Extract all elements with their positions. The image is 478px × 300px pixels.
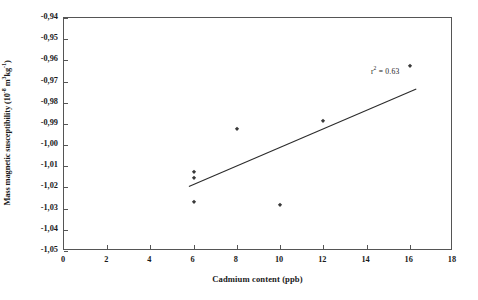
x-axis-tick-mark <box>367 245 368 249</box>
y-axis-tick-label: -1,00 <box>24 140 58 148</box>
plot-area: r2 = 0.63 <box>63 17 452 250</box>
y-axis-tick-mark <box>64 60 68 61</box>
y-axis-tick-mark <box>64 209 68 210</box>
y-axis-tick-label: -1,04 <box>24 225 58 233</box>
y-axis-tick-mark <box>64 124 68 125</box>
x-axis-title: Cadmium content (ppb) <box>63 274 452 284</box>
y-axis-tick-mark <box>64 166 68 167</box>
y-axis-tick-label: -0,97 <box>24 77 58 85</box>
y-axis-tick-label: -1,03 <box>24 204 58 212</box>
y-axis-tick-label: -1,01 <box>24 161 58 169</box>
y-axis-tick-mark <box>64 251 68 252</box>
y-axis-title-exp2: 3 <box>1 77 7 80</box>
y-axis-title-text: Mass magnetic susceptibility (10-8 m3kg-… <box>3 60 12 205</box>
y-axis-title-close: ) <box>3 60 12 63</box>
r2-value: = 0.63 <box>377 67 400 76</box>
y-axis-tick-label: -0,94 <box>24 13 58 21</box>
x-axis-tick-label: 12 <box>310 255 334 265</box>
x-axis-tick-label: 10 <box>267 255 291 265</box>
y-axis-tick-mark <box>64 39 68 40</box>
x-axis-tick-label: 8 <box>224 255 248 265</box>
y-axis-tick-label: -0,95 <box>24 34 58 42</box>
x-axis-tick-mark <box>107 245 108 249</box>
y-axis-title-mid: m <box>3 79 12 88</box>
y-axis-tick-mark <box>64 103 68 104</box>
y-axis-title-exp1: -8 <box>1 88 7 93</box>
y-axis-title-unit: kg <box>3 68 12 77</box>
x-axis-tick-label: 14 <box>354 255 378 265</box>
trendline <box>189 89 416 186</box>
y-axis-tick-label: -0,98 <box>24 98 58 106</box>
x-axis-tick-mark <box>410 245 411 249</box>
chart-figure: Mass magnetic susceptibility (10-8 m3kg-… <box>0 0 478 300</box>
trendline-layer <box>64 18 453 251</box>
x-axis-tick-label: 0 <box>51 255 75 265</box>
x-axis-tick-mark <box>280 245 281 249</box>
x-axis-tick-mark <box>194 245 195 249</box>
y-axis-tick-mark <box>64 18 68 19</box>
x-axis-tick-label: 16 <box>397 255 421 265</box>
r-squared-annotation: r2 = 0.63 <box>371 67 400 76</box>
x-axis-tick-label: 4 <box>137 255 161 265</box>
y-axis-tick-label: -1,05 <box>24 246 58 254</box>
x-axis-tick-mark <box>150 245 151 249</box>
y-axis-tick-mark <box>64 82 68 83</box>
x-axis-tick-labels: 024681012141618 <box>63 255 452 267</box>
y-axis-tick-mark <box>64 187 68 188</box>
y-axis-title: Mass magnetic susceptibility (10-8 m3kg-… <box>0 17 14 250</box>
x-axis-tick-mark <box>323 245 324 249</box>
y-axis-tick-mark <box>64 145 68 146</box>
x-axis-tick-mark <box>237 245 238 249</box>
y-axis-tick-label: -0,99 <box>24 119 58 127</box>
y-axis-tick-label: -1,02 <box>24 182 58 190</box>
x-axis-tick-label: 6 <box>181 255 205 265</box>
y-axis-tick-mark <box>64 230 68 231</box>
y-axis-title-exp3: -1 <box>1 63 7 68</box>
y-axis-title-main: Mass magnetic susceptibility (10 <box>3 93 12 205</box>
y-axis-tick-label: -0,96 <box>24 55 58 63</box>
x-axis-tick-label: 18 <box>440 255 464 265</box>
x-axis-tick-label: 2 <box>94 255 118 265</box>
